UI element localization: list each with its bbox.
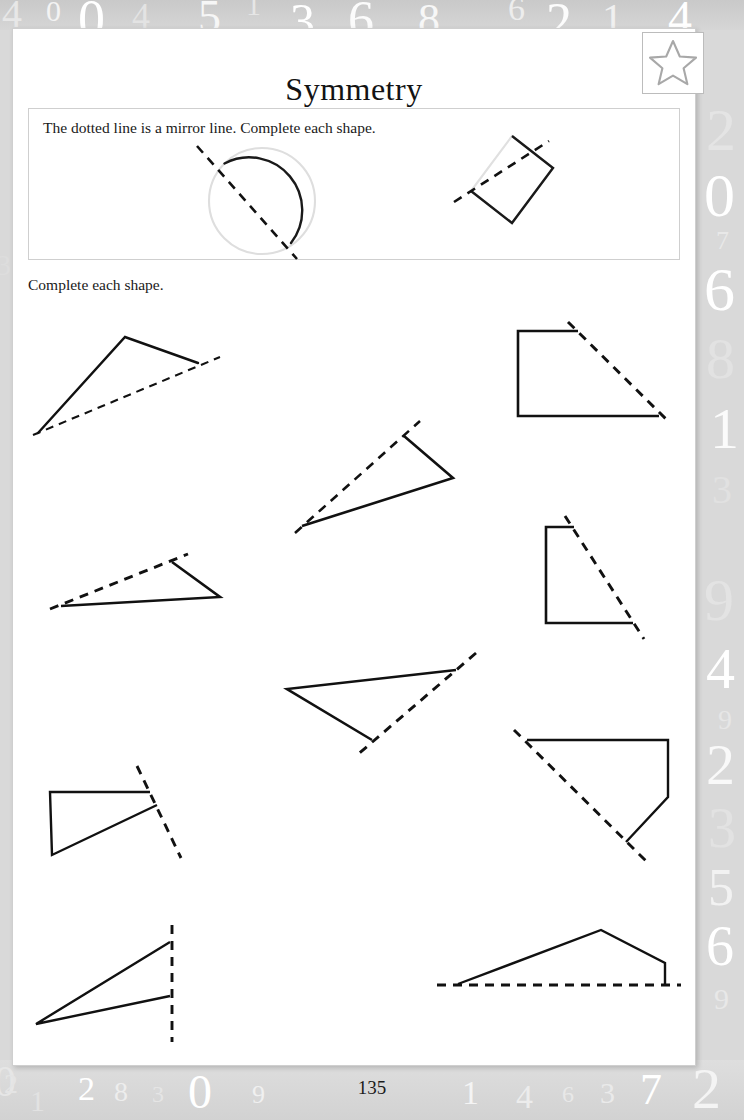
main-instruction: Complete each shape. (28, 276, 164, 294)
background-number-r9: 9 (718, 706, 732, 734)
page-title: Symmetry (12, 71, 696, 108)
star-badge (642, 32, 704, 94)
background-number-r8: 4 (706, 640, 735, 698)
background-top-band (0, 0, 744, 30)
background-number-r6: 3 (712, 470, 732, 510)
worksheet-sheet: Symmetry The dotted line is a mirror lin… (12, 28, 696, 1066)
background-number-r12: 5 (708, 862, 734, 914)
background-number-r5: 1 (710, 400, 739, 458)
example-instruction: The dotted line is a mirror line. Comple… (43, 119, 376, 137)
background-number-r2: 7 (716, 228, 729, 254)
background-number-r4: 8 (706, 330, 735, 388)
star-icon (643, 33, 703, 93)
background-number-r11: 3 (708, 800, 736, 856)
background-number-r0: 2 (706, 100, 736, 160)
page-number: 135 (0, 1077, 744, 1099)
example-box: The dotted line is a mirror line. Comple… (28, 108, 680, 260)
background-number-r1: 0 (704, 164, 735, 226)
background-number-r3: 6 (704, 258, 735, 320)
worksheet-page: 4 0 0 4 5 1 3 6 8 6 2 1 4 2 0 7 6 8 1 3 … (0, 0, 744, 1120)
background-number-r14: 9 (714, 984, 729, 1014)
example-circle (197, 146, 315, 259)
background-number-r13: 6 (706, 918, 734, 974)
example-square (454, 136, 553, 223)
background-number-r10: 2 (706, 736, 735, 794)
background-number-r7: 9 (704, 570, 734, 630)
background-number-l1: 3 (0, 250, 11, 280)
